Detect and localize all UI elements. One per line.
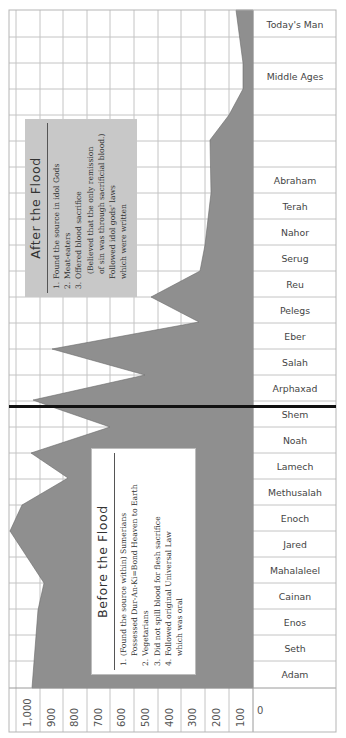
axis-tick-label: 1,000 [22,698,33,727]
row-label: Today's Man [266,19,324,30]
annotation-number: 2. [62,279,73,289]
annotation-line: of sin was through sacrificial blood.) [96,119,107,289]
row-label: Terah [281,201,307,212]
annotation-number: 2. [140,656,151,666]
annotation-line: 1.Found the source in idol Gods [51,119,62,289]
axis-tick-label: 600 [116,708,127,727]
axis-tick-label: 800 [69,708,80,727]
annotation-number: 4. [163,656,174,666]
row-label: Pelegs [280,305,310,316]
after-flood-box: After the Flood 1.Found the source in id… [25,119,137,297]
row-label: Arphaxad [273,383,318,394]
annotation-text: Found the source in idol Gods [52,164,61,279]
annotation-line: 4.Followed original Universal Law [163,449,174,666]
row-label: Reu [286,279,304,290]
row-label: Adam [282,669,309,680]
annotation-text: Offered blood sacrifice [74,191,83,279]
annotation-line: 3.Offered blood sacrifice [73,119,84,289]
row-label: Eber [284,331,305,342]
annotation-line: which was oral [174,449,185,666]
annotation-text: which were written [118,119,129,289]
row-label: Jared [282,539,307,550]
annotation-text: which was oral [174,449,185,666]
annotation-line: 2.Vegetarians [140,449,151,666]
row-label: Lamech [277,461,314,472]
row-label: Mahalaleel [270,565,320,576]
annotation-number: 1. [51,279,62,289]
annotation-text: Meat-eaters [63,232,72,279]
annotation-line: 1.(Found the source within) Sumerians [118,449,129,666]
annotation-number: 1. [118,656,129,666]
axis-tick-label: 200 [211,708,222,727]
row-label: Seth [284,643,305,654]
annotation-text: of sin was through sacrificial blood.) [96,119,107,289]
row-label: Methusalah [268,487,322,498]
row-label: Enoch [281,513,310,524]
row-label: Abraham [274,175,316,186]
annotation-line: 3.Did not spill blood for flesh sacrific… [152,449,163,666]
axis-tick-label: 400 [164,708,175,727]
after-flood-list: 1.Found the source in idol Gods2.Meat-ea… [51,119,129,297]
annotation-text: Followed original Universal Law [164,531,173,656]
axis-zero-label: 0 [257,705,263,716]
axis-tick-label: 100 [235,708,246,727]
row-label: Serug [281,253,308,264]
row-label: Nahor [281,227,309,238]
row-label: Middle Ages [267,71,324,82]
row-label: Enos [284,617,306,628]
annotation-line: Possessed Dur-An-Ki=Bond Heaven to Earth [129,449,140,666]
annotation-text: (Found the source within) Sumerians [119,513,128,656]
row-label: Noah [283,435,307,446]
before-flood-title: Before the Flood [92,453,115,670]
annotation-text: Did not spill blood for flesh sacrifice [153,516,162,656]
annotation-line: 2.Meat-eaters [62,119,73,289]
annotation-line: (Believed that the only remission [85,119,96,289]
annotation-text: Vegetarians [141,610,150,656]
row-label: Salah [282,357,308,368]
row-label: Shem [282,409,309,420]
before-flood-box: Before the Flood 1.(Found the source wit… [91,448,196,675]
axis-tick-label: 900 [46,708,57,727]
annotation-line: Followed idol gods' laws [107,119,118,289]
axis-tick-label: 700 [93,708,104,727]
annotation-text: (Believed that the only remission [85,119,96,289]
annotation-number: 3. [152,656,163,666]
axis-tick-label: 300 [187,708,198,727]
annotation-text: Followed idol gods' laws [107,119,118,289]
axis-tick-label: 500 [140,708,151,727]
annotation-number: 3. [73,279,84,289]
after-flood-title: After the Flood [25,123,48,293]
annotation-line: which were written [118,119,129,289]
before-flood-list: 1.(Found the source within) SumeriansPos… [118,449,185,674]
row-label: Cainan [279,591,311,602]
value-axis: 1,0009008007006005004003002001000 [22,698,263,727]
annotation-text: Possessed Dur-An-Ki=Bond Heaven to Earth [129,449,140,666]
